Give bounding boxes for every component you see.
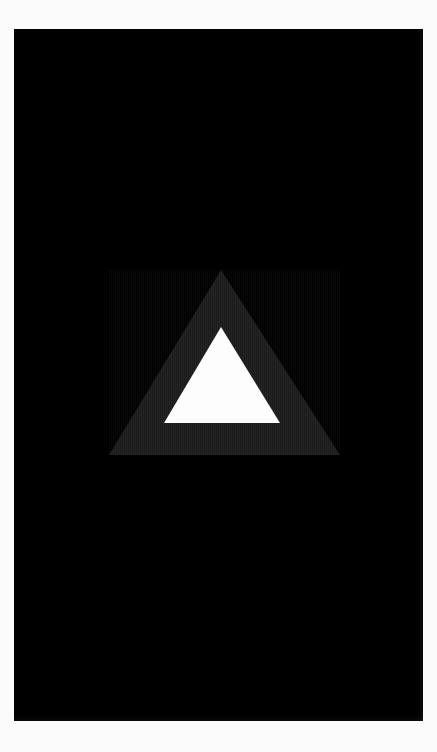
black-panel bbox=[14, 29, 423, 721]
triangle-logo[interactable] bbox=[109, 270, 340, 455]
screenshot-canvas bbox=[0, 0, 437, 752]
